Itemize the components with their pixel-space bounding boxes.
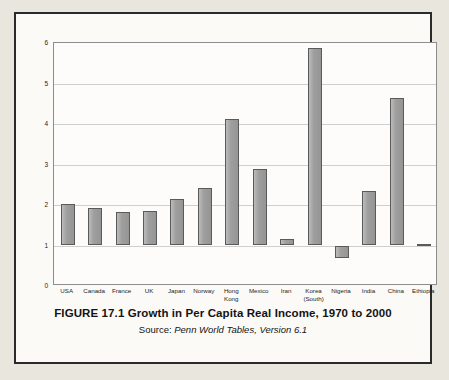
x-tick-label: Japan [163,287,190,295]
gridline [54,165,436,166]
x-tick-label: Hong Kong [218,287,245,303]
source-label: Source: [139,324,174,335]
bar [417,244,431,246]
bar [308,48,322,246]
x-tick-label: Ethiopia [410,287,437,295]
y-axis-tick-labels: 0123456 [24,42,48,285]
y-tick-label: 5 [44,79,48,86]
bar [170,199,184,246]
bar [253,169,267,246]
plot-area [53,42,437,285]
x-tick-label: Mexico [245,287,272,295]
x-tick-label: USA [53,287,80,295]
bar [280,239,294,245]
y-tick-label: 2 [44,201,48,208]
y-tick-label: 0 [44,282,48,289]
x-tick-label: Canada [80,287,107,295]
x-tick-label: India [355,287,382,295]
bar [335,246,349,258]
bar [198,188,212,246]
x-tick-label: Iran [272,287,299,295]
x-tick-label: Nigeria [327,287,354,295]
y-tick-label: 6 [44,39,48,46]
bar [390,98,404,246]
gridline [54,124,436,125]
bar [61,204,75,246]
bar [362,191,376,246]
gridline [54,84,436,85]
gridline [54,246,436,247]
x-tick-label: UK [135,287,162,295]
x-tick-label: China [382,287,409,295]
source-title: Penn World Tables, Version 6.1 [174,324,307,335]
bar [116,212,130,245]
x-tick-label: France [108,287,135,295]
bar [88,208,102,245]
caption-source: Source: Penn World Tables, Version 6.1 [26,324,420,336]
bar [225,119,239,245]
figure-box: 0123456 USACanadaFranceUKJapanNorwayHong… [14,12,432,364]
y-tick-label: 1 [44,241,48,248]
caption-title: FIGURE 17.1 Growth in Per Capita Real In… [26,306,420,321]
x-tick-label: Korea (South) [300,287,327,303]
y-tick-label: 4 [44,120,48,127]
y-tick-label: 3 [44,160,48,167]
bar [143,211,157,245]
gridline [54,205,436,206]
x-tick-label: Norway [190,287,217,295]
page-canvas: 0123456 USACanadaFranceUKJapanNorwayHong… [0,0,449,380]
figure-caption: FIGURE 17.1 Growth in Per Capita Real In… [26,306,420,336]
bar-chart: 0123456 USACanadaFranceUKJapanNorwayHong… [24,20,424,300]
